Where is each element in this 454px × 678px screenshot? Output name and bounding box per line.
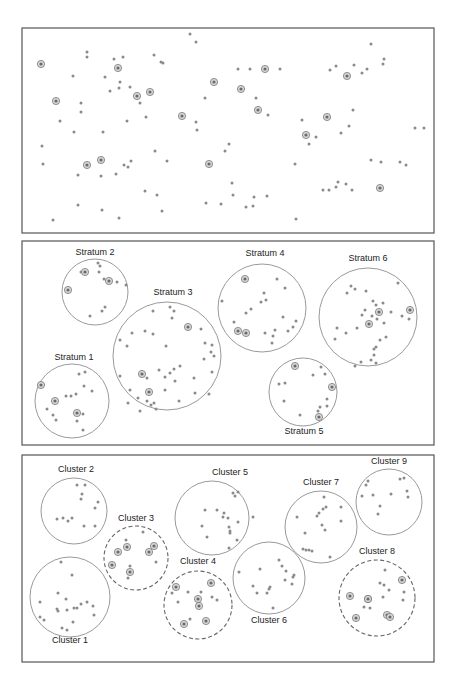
- group-label: Cluster 2: [58, 464, 94, 474]
- population-dot: [145, 116, 148, 119]
- population-dot: [361, 495, 364, 498]
- population-dot: [119, 375, 122, 378]
- population-dot: [237, 491, 240, 494]
- population-dot: [142, 531, 145, 534]
- population-dot: [200, 328, 203, 331]
- population-dot: [103, 278, 106, 281]
- population-dot: [376, 318, 379, 321]
- population-dot: [204, 509, 207, 512]
- population-dot: [152, 310, 155, 313]
- selected-unit-marker: [376, 184, 383, 191]
- population-dot: [324, 529, 327, 532]
- population-dot: [360, 361, 363, 364]
- population-dot: [92, 605, 95, 608]
- population-dot: [224, 150, 227, 153]
- population-dot: [178, 400, 181, 403]
- population-dot: [55, 419, 58, 422]
- selected-unit-marker: [145, 548, 152, 555]
- population-dot: [372, 494, 375, 497]
- population-dot: [382, 596, 385, 599]
- population-dot: [62, 517, 65, 520]
- population-dot: [228, 143, 231, 146]
- selected-unit-marker: [145, 388, 152, 395]
- population-dot: [144, 190, 147, 193]
- population-dot: [220, 203, 223, 206]
- population-dot: [334, 338, 337, 341]
- selected-unit-marker: [207, 579, 214, 586]
- selected-unit-marker: [343, 72, 350, 79]
- population-dot: [113, 58, 116, 61]
- population-dot: [291, 583, 294, 586]
- population-dot: [73, 131, 76, 134]
- population-dot: [369, 607, 372, 610]
- population-dot: [227, 517, 230, 520]
- population-dot: [109, 90, 112, 93]
- population-dot: [414, 127, 417, 130]
- population-dot: [336, 327, 339, 330]
- population-dot: [153, 402, 156, 405]
- population-dot: [266, 592, 269, 595]
- selected-unit-marker: [126, 568, 133, 575]
- population-dot: [278, 383, 281, 386]
- population-dot: [119, 339, 122, 342]
- panel-frame: [22, 28, 434, 233]
- population-dot: [252, 516, 255, 519]
- selected-unit-marker: [261, 65, 268, 72]
- population-dot: [65, 395, 68, 398]
- population-dot: [70, 395, 73, 398]
- population-dot: [164, 389, 167, 392]
- population-dot: [379, 582, 382, 585]
- population-dot: [164, 376, 167, 379]
- population-dot: [177, 601, 180, 604]
- population-dot: [126, 120, 129, 123]
- population-dot: [187, 591, 190, 594]
- population-dot: [196, 129, 199, 132]
- group-label: Cluster 7: [303, 477, 339, 487]
- population-dot: [326, 398, 329, 401]
- population-dot: [169, 372, 172, 375]
- population-dot: [272, 335, 275, 338]
- population-dot: [379, 505, 382, 508]
- population-dot: [76, 607, 79, 610]
- population-dot: [350, 285, 353, 288]
- population-dot: [384, 569, 387, 572]
- population-dot: [211, 596, 214, 599]
- population-dot: [57, 592, 60, 595]
- population-dot: [125, 539, 128, 542]
- population-dot: [399, 161, 402, 164]
- selected-unit-marker: [114, 548, 121, 555]
- selected-unit-marker: [237, 85, 244, 92]
- population-dot: [353, 64, 356, 67]
- population-dot: [322, 189, 325, 192]
- population-dot: [283, 400, 286, 403]
- population-dot: [211, 371, 214, 374]
- selected-unit-marker: [184, 323, 191, 330]
- population-dot: [160, 61, 163, 64]
- population-dot: [139, 410, 142, 413]
- population-dot: [83, 385, 86, 388]
- population-dot: [317, 410, 320, 413]
- population-dot: [294, 163, 297, 166]
- selected-unit-marker: [73, 409, 80, 416]
- population-dot: [406, 490, 409, 493]
- population-dot: [94, 525, 97, 528]
- population-dot: [388, 589, 391, 592]
- population-dot: [127, 577, 130, 580]
- population-dot: [274, 329, 277, 332]
- population-dot: [71, 574, 74, 577]
- population-dot: [123, 164, 126, 167]
- population-dot: [76, 420, 79, 423]
- population-dot: [72, 75, 75, 78]
- population-dot: [78, 373, 81, 376]
- population-dot: [236, 539, 239, 542]
- population-dot: [98, 271, 101, 274]
- population-dot: [204, 342, 207, 345]
- population-dot: [383, 58, 386, 61]
- population-dot: [305, 549, 308, 552]
- selected-unit-marker: [138, 370, 145, 377]
- population-dot: [127, 402, 130, 405]
- population-dot: [158, 369, 161, 372]
- population-dot: [80, 111, 83, 114]
- population-dot: [91, 390, 94, 393]
- population-dot: [335, 186, 338, 189]
